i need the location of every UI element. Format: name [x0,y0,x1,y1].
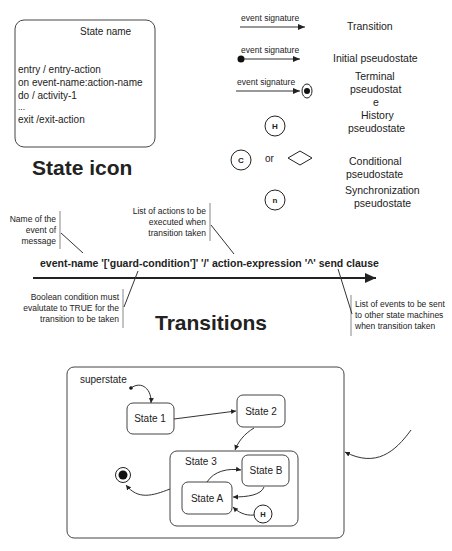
note-event-name-2: event of [26,225,57,235]
transition-label: Transition [347,20,393,32]
state-a: State A [182,482,232,514]
note-send-3: when transition taken [354,321,436,331]
note-guard-3: transition to be taken [40,314,119,324]
pointer-line [61,233,83,253]
state-line-exit: exit /exit-action [18,114,85,125]
transition-signature: event signature [241,13,299,23]
legend-synchronization-pseudostate: n Synchronization pseudostate [265,184,420,210]
pointer-line [338,269,352,314]
terminal-label-2: pseudostat [350,83,401,95]
note-event-name-1: Name of the [10,214,57,224]
note-guard-2: evalutate to TRUE for the [23,303,119,313]
state-3-label: State 3 [185,456,217,467]
conditional-diamond-icon [288,151,312,165]
note-send-2: to other state machines [355,310,443,320]
legend-history-pseudostate: H History pseudostate [265,109,405,136]
state-1: State 1 [127,403,174,434]
legend-initial-pseudostate: event signature Initial pseudostate [238,45,418,64]
statechart-notation-diagram: State name entry / entry-action on event… [0,0,452,551]
terminal-dot-icon [119,471,128,480]
superstate-label: superstate [80,374,127,385]
state-line-on-event: on event-name:action-name [18,77,143,88]
note-event-name-3: message [22,236,57,246]
state-icon-title: State icon [32,156,132,179]
pointer-line [211,225,234,254]
terminal-label-3: e [373,96,379,108]
state-a-label: State A [191,493,224,504]
transition-into-superstate [345,430,411,458]
note-event-name: Name of the event of message [10,211,83,253]
history-label-2: pseudostate [348,122,405,134]
terminal-dot-icon [304,88,310,94]
terminal-label-1: Terminal [355,70,395,82]
legend-terminal-pseudostate: event signature Terminal pseudostat e [236,70,401,108]
conditional-or: or [265,153,275,164]
legend-conditional-pseudostate: C or Conditional pseudostate [231,150,403,180]
note-send-clause: List of events to be sent to other state… [338,269,445,336]
terminal-signature: event signature [237,77,295,87]
initial-signature: event signature [241,45,299,55]
state-2: State 2 [237,395,285,427]
note-actions-1: List of actions to be [133,206,207,216]
note-guard-condition: Boolean condition must evalutate to TRUE… [23,271,138,328]
state-b-label: State B [250,465,283,476]
conditional-label-1: Conditional [349,155,402,167]
transitions-title: Transitions [155,311,267,334]
sync-glyph: n [273,196,278,205]
state-b: State B [242,455,289,486]
pointer-line [124,271,138,307]
conditional-glyph: C [238,156,244,165]
state-name-label: State name [80,26,132,37]
note-actions: List of actions to be executed when tran… [133,203,234,254]
state-1-label: State 1 [134,413,166,424]
state-line-entry: entry / entry-action [18,64,101,75]
history-glyph: H [272,122,278,131]
history-label-1: History [361,109,394,121]
transition-syntax: event-name '['guard-condition']' '/' act… [40,257,379,269]
note-guard-1: Boolean condition must [31,292,120,302]
note-actions-2: executed when [149,217,206,227]
legend-transition: event signature Transition [240,13,393,32]
state-line-do: do / activity-1 [18,90,77,101]
note-send-1: List of events to be sent [355,299,445,309]
sync-label-1: Synchronization [345,184,420,196]
note-actions-3: transition taken [148,228,206,238]
state-2-label: State 2 [245,406,277,417]
conditional-label-2: pseudostate [346,168,403,180]
state-line-ellipsis: ... [18,102,25,112]
initial-dot-icon [238,56,245,63]
sync-label-2: pseudostate [354,197,411,209]
initial-label: Initial pseudostate [333,52,418,64]
history-glyph: H [260,510,265,519]
state-icon-box: State name entry / entry-action on event… [15,20,155,147]
